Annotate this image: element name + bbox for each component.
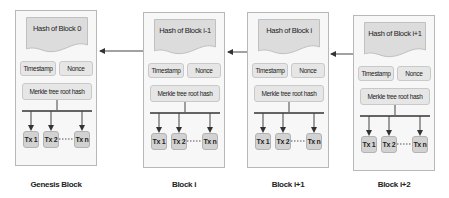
transaction-2: Tx 2 xyxy=(275,133,291,150)
transaction-2: Tx 2 xyxy=(171,133,187,150)
block-caption: Genesis Block xyxy=(15,180,97,189)
transaction-1: Tx 1 xyxy=(151,133,167,150)
block-caption: Block i+2 xyxy=(353,180,435,189)
transaction-n: Tx n xyxy=(74,131,90,148)
transaction-1: Tx 1 xyxy=(255,133,271,150)
transaction-1: Tx 1 xyxy=(23,131,39,148)
block-caption: Block i+1 xyxy=(247,180,329,189)
transaction-2: Tx 2 xyxy=(43,131,59,148)
transaction-2: Tx 2 xyxy=(381,136,397,153)
transaction-n: Tx n xyxy=(306,133,322,150)
block-genesis: Hash of Block 0 Timestamp Nonce Merkle t… xyxy=(15,10,97,166)
block-caption: Block i xyxy=(143,180,225,189)
block-i: Hash of Block i-1 Timestamp Nonce Merkle… xyxy=(143,12,225,168)
block-i-plus-2: Hash of Block i+1 Timestamp Nonce Merkle… xyxy=(353,15,435,171)
block-i-plus-1: Hash of Block i Timestamp Nonce Merkle t… xyxy=(247,12,329,168)
transaction-n: Tx n xyxy=(412,136,428,153)
transaction-n: Tx n xyxy=(202,133,218,150)
transaction-1: Tx 1 xyxy=(361,136,377,153)
